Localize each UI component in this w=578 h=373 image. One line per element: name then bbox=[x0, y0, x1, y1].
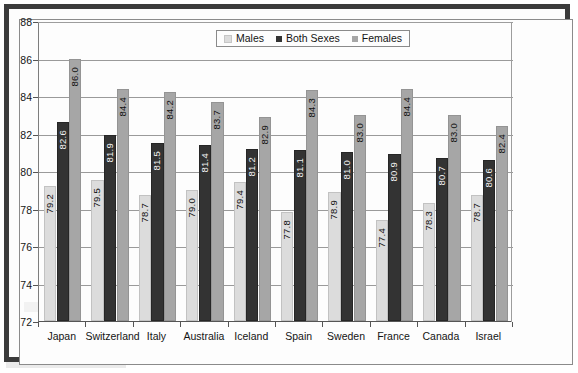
bar-both-sexes-japan: 82.6 bbox=[57, 122, 69, 321]
bar-both-sexes-iceland: 81.2 bbox=[246, 149, 258, 322]
bar-value-label: 80.6 bbox=[485, 168, 495, 187]
bar-females-france: 84.4 bbox=[401, 89, 413, 322]
x-axis-tick-mark bbox=[417, 322, 418, 327]
bar-females-sweden: 83.0 bbox=[354, 115, 366, 321]
bar-both-sexes-israel: 80.6 bbox=[483, 160, 495, 321]
gridline bbox=[39, 60, 513, 61]
bar-males-iceland: 79.4 bbox=[234, 182, 246, 321]
chart-screenshot: 888684828078767472 79.282.686.079.581.98… bbox=[0, 0, 578, 373]
bar-value-label: 84.2 bbox=[165, 100, 175, 119]
bar-value-label: 79.5 bbox=[93, 188, 103, 207]
chart-legend: MalesBoth SexesFemales bbox=[216, 30, 410, 47]
bar-value-label: 78.3 bbox=[425, 211, 435, 230]
x-axis-category-label: Spain bbox=[275, 331, 322, 343]
bar-value-label: 81.9 bbox=[105, 143, 115, 162]
bar-both-sexes-spain: 81.1 bbox=[294, 150, 306, 321]
legend-item-females[interactable]: Females bbox=[352, 33, 402, 44]
bar-value-label: 80.9 bbox=[390, 162, 400, 181]
plot-area: 79.282.686.079.581.984.478.781.584.279.0… bbox=[38, 22, 512, 322]
x-axis-category-label: France bbox=[370, 331, 417, 343]
bar-value-label: 84.3 bbox=[308, 98, 318, 117]
x-axis-tick-mark bbox=[465, 322, 466, 327]
bar-value-label: 79.2 bbox=[45, 194, 55, 213]
x-axis-category-label: Switzerland bbox=[85, 331, 132, 343]
bar-both-sexes-france: 80.9 bbox=[388, 154, 400, 321]
bar-value-label: 81.2 bbox=[248, 157, 258, 176]
x-axis-tick-mark bbox=[38, 322, 39, 327]
bar-value-label: 79.4 bbox=[235, 190, 245, 209]
x-axis-tick-mark bbox=[133, 322, 134, 327]
bar-value-label: 81.1 bbox=[295, 158, 305, 177]
x-axis-category-label: Iceland bbox=[228, 331, 275, 343]
bar-females-israel: 82.4 bbox=[496, 126, 508, 321]
legend-item-both[interactable]: Both Sexes bbox=[276, 33, 340, 44]
bar-males-switzerland: 79.5 bbox=[91, 180, 103, 321]
x-axis-category-label: Canada bbox=[417, 331, 464, 343]
bar-males-australia: 79.0 bbox=[186, 190, 198, 321]
bar-both-sexes-italy: 81.5 bbox=[151, 143, 163, 321]
bar-value-label: 78.9 bbox=[330, 200, 340, 219]
bar-value-label: 82.9 bbox=[260, 125, 270, 144]
bar-value-label: 78.7 bbox=[472, 203, 482, 222]
bar-females-italy: 84.2 bbox=[164, 92, 176, 321]
x-axis-tick-mark bbox=[512, 322, 513, 327]
bar-both-sexes-switzerland: 81.9 bbox=[104, 135, 116, 321]
bar-males-france: 77.4 bbox=[376, 220, 388, 321]
bar-males-canada: 78.3 bbox=[423, 203, 435, 321]
bar-females-iceland: 82.9 bbox=[259, 117, 271, 321]
bar-value-label: 83.0 bbox=[355, 123, 365, 142]
bar-both-sexes-canada: 80.7 bbox=[436, 158, 448, 321]
bar-males-israel: 78.7 bbox=[471, 195, 483, 321]
legend-item-males[interactable]: Males bbox=[224, 33, 264, 44]
legend-label: Both Sexes bbox=[286, 33, 340, 44]
bar-females-australia: 83.7 bbox=[211, 102, 223, 321]
x-axis-category-label: Australia bbox=[180, 331, 227, 343]
bar-both-sexes-sweden: 81.0 bbox=[341, 152, 353, 321]
bar-value-label: 80.7 bbox=[437, 166, 447, 185]
bar-value-label: 81.4 bbox=[200, 153, 210, 172]
x-axis-tick-mark bbox=[275, 322, 276, 327]
x-axis-category-label: Israel bbox=[465, 331, 512, 343]
bar-females-spain: 84.3 bbox=[306, 90, 318, 321]
bar-males-spain: 77.8 bbox=[281, 212, 293, 321]
legend-swatch-icon bbox=[352, 36, 358, 42]
gridline bbox=[39, 97, 513, 98]
legend-label: Males bbox=[236, 33, 264, 44]
bar-value-label: 83.7 bbox=[213, 110, 223, 129]
bar-value-label: 79.0 bbox=[188, 198, 198, 217]
bar-value-label: 81.0 bbox=[342, 160, 352, 179]
x-axis-tick-mark bbox=[370, 322, 371, 327]
legend-label: Females bbox=[362, 33, 402, 44]
legend-swatch-icon bbox=[224, 35, 232, 43]
bar-value-label: 84.4 bbox=[118, 97, 128, 116]
x-axis-tick-mark bbox=[228, 322, 229, 327]
bar-value-label: 78.7 bbox=[140, 203, 150, 222]
bar-males-japan: 79.2 bbox=[44, 186, 56, 321]
bar-females-switzerland: 84.4 bbox=[117, 89, 129, 322]
bar-males-sweden: 78.9 bbox=[328, 192, 340, 321]
x-axis-tick-mark bbox=[322, 322, 323, 327]
bar-males-italy: 78.7 bbox=[139, 195, 151, 321]
bar-value-label: 81.5 bbox=[153, 151, 163, 170]
gridline bbox=[39, 22, 513, 23]
bar-value-label: 83.0 bbox=[450, 123, 460, 142]
bar-both-sexes-australia: 81.4 bbox=[199, 145, 211, 321]
legend-swatch-icon bbox=[276, 36, 282, 42]
bar-value-label: 86.0 bbox=[71, 67, 81, 86]
x-axis-tick-mark bbox=[180, 322, 181, 327]
x-axis-category-label: Japan bbox=[38, 331, 85, 343]
x-axis-category-label: Sweden bbox=[322, 331, 369, 343]
x-axis-tick-mark bbox=[85, 322, 86, 327]
x-axis-category-label: Italy bbox=[133, 331, 180, 343]
bar-value-label: 77.4 bbox=[377, 228, 387, 247]
bar-females-japan: 86.0 bbox=[69, 59, 81, 322]
bar-value-label: 84.4 bbox=[402, 97, 412, 116]
bar-value-label: 82.4 bbox=[497, 134, 507, 153]
bar-value-label: 82.6 bbox=[58, 130, 68, 149]
bar-females-canada: 83.0 bbox=[448, 115, 460, 321]
bar-value-label: 77.8 bbox=[282, 220, 292, 239]
